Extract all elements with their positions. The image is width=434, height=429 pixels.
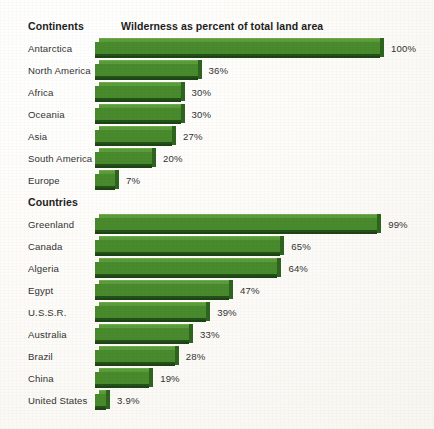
continents-header-row: Continents Wilderness as percent of tota… — [0, 20, 434, 36]
bar-row: Antarctica100% — [0, 38, 434, 60]
bar-value-label: 64% — [288, 263, 308, 274]
bar-value-label: 19% — [160, 373, 180, 384]
bar-front-face — [95, 218, 377, 232]
bar — [95, 390, 110, 412]
bar-value-label: 20% — [163, 153, 183, 164]
bar-side-face — [106, 390, 110, 409]
bar-value-label: 33% — [200, 329, 220, 340]
bar-row: Oceania30% — [0, 104, 434, 126]
chart-title: Wilderness as percent of total land area — [121, 20, 323, 32]
bar-row: Greenland99% — [0, 214, 434, 236]
bar-row: China19% — [0, 368, 434, 390]
bar-row: Europe7% — [0, 170, 434, 192]
bar — [95, 104, 185, 126]
bar-row: U.S.S.R.39% — [0, 302, 434, 324]
category-label: Algeria — [28, 263, 59, 274]
bar-side-face — [377, 214, 381, 233]
bar-side-face — [189, 324, 193, 343]
bar-bottom-shadow — [95, 364, 175, 366]
bar-front-face — [95, 372, 149, 386]
bar — [95, 280, 233, 302]
bar — [95, 346, 179, 368]
category-label: Africa — [28, 87, 53, 98]
countries-header-row: Countries — [0, 196, 434, 212]
bar — [95, 126, 176, 148]
bar-bottom-shadow — [95, 276, 277, 278]
bar-front-face — [95, 240, 280, 254]
bar-front-face — [95, 86, 181, 100]
bar-row: Asia27% — [0, 126, 434, 148]
category-label: U.S.S.R. — [28, 307, 67, 318]
bar-side-face — [175, 346, 179, 365]
category-label: United States — [28, 395, 88, 406]
category-label: Australia — [28, 329, 67, 340]
bar-front-face — [95, 108, 181, 122]
bar-row: Africa30% — [0, 82, 434, 104]
bar-bottom-shadow — [95, 232, 377, 234]
bar-front-face — [95, 174, 115, 188]
bar-value-label: 28% — [186, 351, 206, 362]
bar-side-face — [152, 148, 156, 167]
bar-side-face — [172, 126, 176, 145]
category-label: China — [28, 373, 54, 384]
category-label: Oceania — [28, 109, 65, 120]
bar-row: North America36% — [0, 60, 434, 82]
bar-row: Egypt47% — [0, 280, 434, 302]
category-label: North America — [28, 65, 91, 76]
bar-bottom-shadow — [95, 188, 115, 190]
bar-value-label: 30% — [192, 109, 212, 120]
bar-bottom-shadow — [95, 100, 181, 102]
bar — [95, 82, 185, 104]
bar — [95, 170, 119, 192]
bar-row: Australia33% — [0, 324, 434, 346]
bar-bottom-shadow — [95, 342, 189, 344]
bar-side-face — [181, 104, 185, 123]
bar-bottom-shadow — [95, 166, 152, 168]
bar-front-face — [95, 306, 206, 320]
bar-row: Brazil28% — [0, 346, 434, 368]
category-label: Europe — [28, 175, 60, 186]
bar-side-face — [280, 236, 284, 255]
bar-value-label: 47% — [240, 285, 260, 296]
bar-value-label: 36% — [209, 65, 229, 76]
bar-front-face — [95, 42, 380, 56]
bar-value-label: 3.9% — [117, 395, 139, 406]
bar-bottom-shadow — [95, 298, 229, 300]
bar-side-face — [198, 60, 202, 79]
bar-side-face — [149, 368, 153, 387]
bar — [95, 60, 202, 82]
wilderness-bar-chart: Continents Wilderness as percent of tota… — [0, 0, 434, 429]
bar — [95, 148, 156, 170]
bar-row: United States3.9% — [0, 390, 434, 412]
bar-front-face — [95, 284, 229, 298]
bar-side-face — [115, 170, 119, 189]
bar — [95, 236, 284, 258]
bar-row: South America20% — [0, 148, 434, 170]
bar-value-label: 100% — [391, 43, 416, 54]
bar-front-face — [95, 152, 152, 166]
category-label: South America — [28, 153, 92, 164]
continents-group-label: Continents — [28, 20, 84, 32]
bar-bottom-shadow — [95, 56, 380, 58]
bar-side-face — [380, 38, 384, 57]
category-label: Antarctica — [28, 43, 72, 54]
bar-front-face — [95, 64, 198, 78]
bar — [95, 214, 381, 236]
bar-front-face — [95, 262, 277, 276]
bar-bottom-shadow — [95, 320, 206, 322]
bar-bottom-shadow — [95, 386, 149, 388]
bar-bottom-shadow — [95, 408, 106, 410]
bar-value-label: 27% — [183, 131, 203, 142]
category-label: Greenland — [28, 219, 74, 230]
bar-front-face — [95, 328, 189, 342]
category-label: Canada — [28, 241, 63, 252]
bar-front-face — [95, 394, 106, 408]
bar-side-face — [206, 302, 210, 321]
bar-front-face — [95, 130, 172, 144]
bar-bottom-shadow — [95, 144, 172, 146]
bar — [95, 258, 281, 280]
bar — [95, 38, 384, 60]
bar-value-label: 65% — [291, 241, 311, 252]
bar-value-label: 39% — [217, 307, 237, 318]
bar-side-face — [229, 280, 233, 299]
